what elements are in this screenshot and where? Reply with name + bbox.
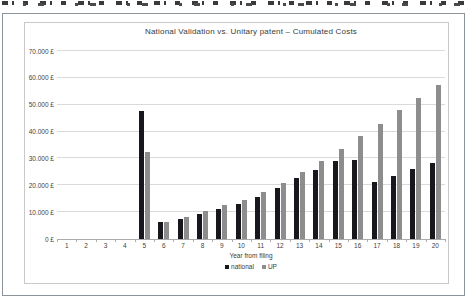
- bar-UP-year-9: [222, 205, 227, 239]
- chart-title: National Validation vs. Unitary patent –…: [57, 27, 445, 36]
- x-tick-label-1: 1: [57, 242, 76, 250]
- bar-UP-year-7: [184, 217, 189, 239]
- gridline-30000: [57, 157, 445, 158]
- x-tick-label-14: 14: [309, 242, 328, 250]
- bar-UP-year-15: [339, 149, 344, 239]
- bar-national-year-10: [236, 204, 241, 239]
- bar-national-year-12: [275, 188, 280, 239]
- x-axis-tick-mark: [96, 239, 97, 242]
- x-tick-label-17: 17: [367, 242, 386, 250]
- x-axis-tick-mark: [309, 239, 310, 242]
- bar-national-year-8: [197, 214, 202, 239]
- x-tick-label-9: 9: [212, 242, 231, 250]
- x-axis-tick-mark: [426, 239, 427, 242]
- x-tick-label-10: 10: [232, 242, 251, 250]
- x-axis-tick-mark: [173, 239, 174, 242]
- legend-swatch-UP: [262, 265, 266, 269]
- x-axis-tick-mark: [290, 239, 291, 242]
- y-tick-label: 70.000 £: [8, 48, 54, 55]
- x-tick-label-11: 11: [251, 242, 270, 250]
- plot-area: [57, 51, 445, 239]
- gridline-50000: [57, 104, 445, 105]
- bar-UP-year-16: [358, 136, 363, 239]
- x-axis-tick-mark: [445, 239, 446, 242]
- bar-national-year-20: [430, 163, 435, 239]
- legend-swatch-national: [225, 265, 229, 269]
- bar-national-year-18: [391, 176, 396, 239]
- gridline-40000: [57, 131, 445, 132]
- gridline-60000: [57, 77, 445, 78]
- x-tick-label-2: 2: [76, 242, 95, 250]
- y-tick-label: 40.000 £: [8, 128, 54, 135]
- bar-national-year-17: [372, 182, 377, 239]
- x-axis-tick-mark: [76, 239, 77, 242]
- x-axis-tick-mark: [348, 239, 349, 242]
- y-tick-label: 0 £: [8, 236, 54, 243]
- x-tick-label-4: 4: [115, 242, 134, 250]
- legend-item-national: national: [225, 263, 254, 270]
- x-tick-label-12: 12: [270, 242, 289, 250]
- x-axis-tick-mark: [251, 239, 252, 242]
- bar-national-year-9: [216, 209, 221, 239]
- bar-national-year-11: [255, 197, 260, 239]
- x-axis-tick-mark: [329, 239, 330, 242]
- clipped-text-artifact: [0, 0, 468, 7]
- x-tick-label-18: 18: [387, 242, 406, 250]
- legend-label-UP: UP: [268, 263, 277, 270]
- bar-national-year-7: [178, 219, 183, 239]
- bar-national-year-6: [158, 222, 163, 239]
- x-axis-tick-mark: [212, 239, 213, 242]
- bar-national-year-16: [352, 160, 357, 239]
- y-tick-label: 10.000 £: [8, 209, 54, 216]
- y-tick-label: 60.000 £: [8, 74, 54, 81]
- x-axis-tick-mark: [193, 239, 194, 242]
- bar-UP-year-8: [203, 211, 208, 239]
- gridline-70000: [57, 50, 445, 51]
- bar-national-year-5: [139, 111, 144, 239]
- bar-UP-year-20: [436, 85, 441, 239]
- x-tick-label-15: 15: [329, 242, 348, 250]
- x-tick-label-19: 19: [406, 242, 425, 250]
- y-tick-label: 50.000 £: [8, 101, 54, 108]
- x-tick-label-6: 6: [154, 242, 173, 250]
- bar-UP-year-19: [416, 98, 421, 239]
- bar-UP-year-14: [319, 161, 324, 239]
- y-tick-label: 30.000 £: [8, 155, 54, 162]
- legend-item-UP: UP: [262, 263, 277, 270]
- x-axis-tick-mark: [367, 239, 368, 242]
- x-tick-label-3: 3: [96, 242, 115, 250]
- bar-UP-year-18: [397, 110, 402, 239]
- x-axis-tick-mark: [135, 239, 136, 242]
- bar-UP-year-13: [300, 172, 305, 239]
- chart-legend: nationalUP: [57, 263, 445, 270]
- gridline-10000: [57, 211, 445, 212]
- x-tick-label-13: 13: [290, 242, 309, 250]
- bar-UP-year-5: [145, 152, 150, 239]
- x-axis-tick-mark: [115, 239, 116, 242]
- x-axis-tick-mark: [387, 239, 388, 242]
- x-axis-tick-mark: [270, 239, 271, 242]
- clipped-glyphs-row-2: [9, 3, 468, 6]
- x-tick-label-8: 8: [193, 242, 212, 250]
- screenshot-root: National Validation vs. Unitary patent –…: [0, 0, 468, 304]
- bar-national-year-15: [333, 161, 338, 239]
- x-axis-tick-mark: [232, 239, 233, 242]
- bar-national-year-14: [313, 170, 318, 239]
- legend-label-national: national: [231, 263, 254, 270]
- gridline-20000: [57, 184, 445, 185]
- x-axis-tick-mark: [57, 239, 58, 242]
- x-tick-label-16: 16: [348, 242, 367, 250]
- bar-UP-year-17: [378, 124, 383, 239]
- bar-national-year-13: [294, 178, 299, 239]
- bar-UP-year-12: [281, 183, 286, 239]
- bar-UP-year-11: [261, 192, 266, 239]
- x-tick-label-7: 7: [173, 242, 192, 250]
- bar-UP-year-10: [242, 200, 247, 239]
- y-tick-label: 20.000 £: [8, 182, 54, 189]
- bar-national-year-19: [410, 169, 415, 239]
- x-tick-label-5: 5: [135, 242, 154, 250]
- bar-UP-year-6: [164, 222, 169, 239]
- x-axis-tick-mark: [154, 239, 155, 242]
- x-axis-title: Year from filing: [57, 252, 445, 259]
- x-axis-tick-mark: [406, 239, 407, 242]
